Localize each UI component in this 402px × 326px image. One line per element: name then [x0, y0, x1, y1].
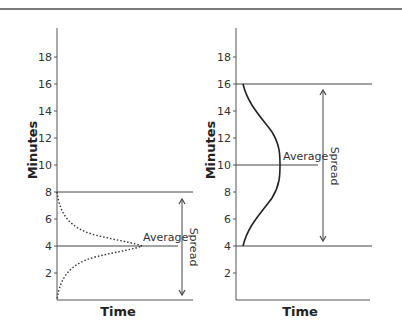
- tick-label: 14: [38, 105, 52, 118]
- left-y-axis-label: Minutes: [25, 120, 40, 179]
- tick-label: 12: [217, 132, 231, 145]
- tick-label: 6: [224, 213, 231, 226]
- left-chart: 18 16 14 12 10 8 6 4 2 Minutes Time Aver…: [25, 28, 200, 319]
- left-spread-label: Spread: [187, 228, 200, 267]
- right-spread-label: Spread: [328, 147, 341, 186]
- tick-label: 4: [45, 240, 52, 253]
- tick-label: 10: [38, 159, 52, 172]
- tick-label: 4: [224, 240, 231, 253]
- tick-label: 12: [38, 132, 52, 145]
- right-y-ticks: 18 16 14 12 10 8 6 4 2: [217, 51, 236, 280]
- tick-label: 14: [217, 105, 231, 118]
- charts-canvas: 18 16 14 12 10 8 6 4 2 Minutes Time Aver…: [0, 0, 402, 326]
- right-average-label: Average: [283, 150, 328, 163]
- tick-label: 18: [217, 51, 231, 64]
- right-y-axis-label: Minutes: [203, 120, 218, 179]
- tick-label: 8: [45, 186, 52, 199]
- left-y-ticks: 18 16 14 12 10 8 6 4 2: [38, 51, 57, 280]
- right-x-axis-label: Time: [282, 304, 318, 319]
- tick-label: 16: [38, 78, 52, 91]
- tick-label: 8: [224, 186, 231, 199]
- right-chart: 18 16 14 12 10 8 6 4 2 Minutes Time Aver…: [203, 28, 372, 319]
- tick-label: 10: [217, 159, 231, 172]
- tick-label: 16: [217, 78, 231, 91]
- left-x-axis-label: Time: [100, 304, 136, 319]
- tick-label: 2: [45, 267, 52, 280]
- tick-label: 18: [38, 51, 52, 64]
- tick-label: 2: [224, 267, 231, 280]
- tick-label: 6: [45, 213, 52, 226]
